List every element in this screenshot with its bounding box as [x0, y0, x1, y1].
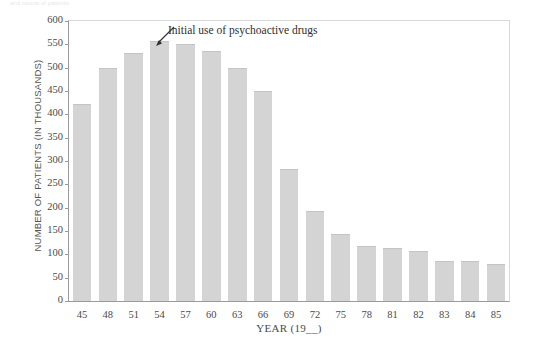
- bar: [331, 234, 350, 301]
- bar: [228, 68, 247, 301]
- plot-area: 050100150200250300350400450500550600 454…: [68, 20, 510, 302]
- bar: [409, 251, 428, 301]
- bar: [487, 264, 506, 301]
- bar: [280, 169, 299, 301]
- y-tick-mark: [65, 301, 69, 302]
- bar: [254, 91, 273, 301]
- y-tick-label: 400: [23, 107, 63, 118]
- y-tick-label: 550: [23, 37, 63, 48]
- y-tick-label: 0: [23, 294, 63, 305]
- top-caption-fragment: and counts of patients: [10, 0, 210, 7]
- bar: [124, 53, 143, 301]
- bar: [357, 246, 376, 301]
- bar: [306, 211, 325, 301]
- bar: [176, 44, 195, 301]
- bar: [73, 104, 92, 301]
- bar: [202, 51, 221, 301]
- y-tick-label: 600: [23, 14, 63, 25]
- bar: [461, 261, 480, 301]
- y-tick-label: 100: [23, 247, 63, 258]
- bar: [383, 248, 402, 301]
- bar-series: [69, 21, 509, 301]
- y-tick-label: 200: [23, 201, 63, 212]
- y-tick-label: 500: [23, 61, 63, 72]
- y-tick-label: 300: [23, 154, 63, 165]
- y-tick-label: 150: [23, 224, 63, 235]
- bar: [150, 41, 169, 301]
- x-tick-label: 85: [476, 309, 516, 320]
- annotation-label: Initial use of psychoactive drugs: [168, 24, 317, 36]
- y-tick-label: 350: [23, 131, 63, 142]
- bar: [435, 261, 454, 301]
- y-tick-label: 450: [23, 84, 63, 95]
- x-axis-title: YEAR (19__): [68, 322, 510, 334]
- bar-chart-figure: and counts of patients NUMBER OF PATIENT…: [0, 0, 540, 353]
- y-tick-label: 250: [23, 177, 63, 188]
- bar: [99, 68, 118, 301]
- y-tick-label: 50: [23, 271, 63, 282]
